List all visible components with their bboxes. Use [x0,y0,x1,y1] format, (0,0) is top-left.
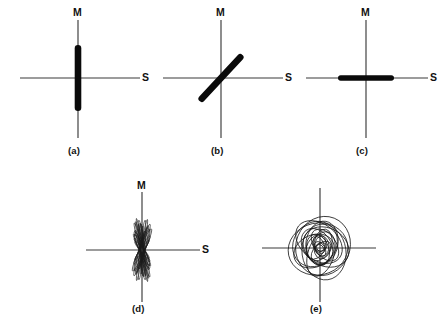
panel-b-label-s: S [285,72,292,82]
panel-c-label-m: M [361,7,370,17]
panel-e: (e) [248,178,408,328]
panel-b: M S (b) [148,0,298,165]
panel-c-motion-bar [338,75,394,81]
panel-b-caption: (b) [211,146,224,156]
panel-a-motion-bar [75,45,82,111]
panel-e-caption: (e) [310,304,322,314]
panel-c-caption: (c) [356,146,368,156]
panel-b-label-m: M [216,7,225,17]
panel-d-caption: (d) [132,304,145,314]
panel-a-caption: (a) [68,146,80,156]
panel-c: M S (c) [295,0,447,165]
orbit-ellipse [296,219,356,275]
panel-a: M S (a) [0,0,150,165]
panel-d: M S (d) [82,178,232,328]
figure-root: M S (a) M S (b) M S (c) M [0,0,447,332]
panel-a-label-m: M [73,7,82,17]
panel-e-orbit-group [283,208,359,284]
panel-c-label-s: S [430,72,437,82]
panel-d-label-m: M [137,180,146,190]
panel-d-label-s: S [202,244,209,254]
